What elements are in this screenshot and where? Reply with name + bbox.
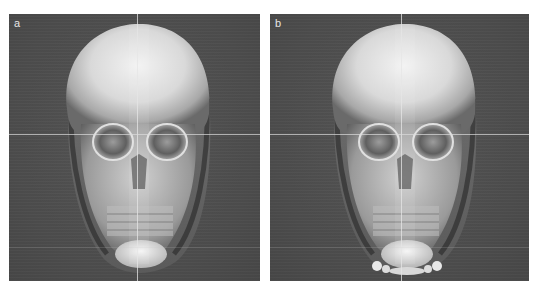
panel-label: b (275, 17, 281, 29)
panel-a: a (9, 14, 260, 281)
skull-rendering (270, 14, 529, 281)
panel-b: b (270, 14, 529, 281)
skull-rendering (9, 14, 260, 281)
crosshair-vertical (137, 14, 138, 281)
crosshair-horizontal-secondary (270, 247, 529, 248)
crosshair-horizontal-secondary (9, 247, 260, 248)
panel-label: a (14, 17, 20, 29)
crosshair-vertical (401, 14, 402, 281)
crosshair-horizontal (270, 134, 529, 135)
crosshair-horizontal (9, 134, 260, 135)
